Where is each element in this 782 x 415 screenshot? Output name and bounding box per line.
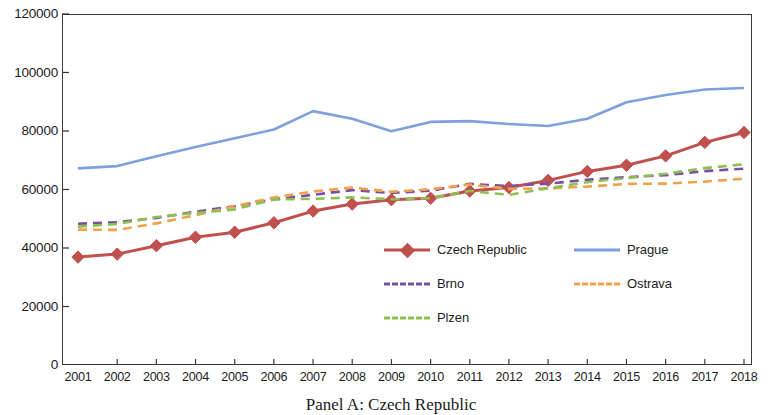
x-tick-label: 2003: [136, 370, 176, 384]
x-tick-label: 2016: [646, 370, 686, 384]
x-tick-label: 2017: [685, 370, 725, 384]
x-tick-label: 2011: [450, 370, 490, 384]
data-point-marker: [111, 248, 123, 260]
series-line-prague: [78, 88, 744, 168]
legend-label: Czech Republic: [437, 243, 527, 257]
data-point-marker: [229, 226, 241, 238]
x-tick-label: 2006: [254, 370, 294, 384]
data-point-marker: [189, 231, 201, 243]
data-point-marker: [659, 150, 671, 162]
data-point-marker: [581, 165, 593, 177]
legend-swatch-icon: [384, 277, 430, 291]
x-tick-label: 2012: [489, 370, 529, 384]
x-tick-label: 2008: [332, 370, 372, 384]
legend-swatch-icon: [574, 277, 620, 291]
x-tick-label: 2001: [58, 370, 98, 384]
data-point-marker: [346, 198, 358, 210]
legend-label: Ostrava: [627, 277, 672, 291]
series-line-plzen: [78, 164, 744, 226]
x-tick-label: 2015: [606, 370, 646, 384]
x-tick-label: 2004: [176, 370, 216, 384]
legend-swatch-icon: [384, 243, 430, 257]
data-point-marker: [620, 159, 632, 171]
legend-entry-brno[interactable]: Brno: [384, 274, 464, 294]
data-point-marker: [699, 136, 711, 148]
legend-diamond-marker-icon: [399, 242, 415, 258]
legend-label: Brno: [437, 277, 464, 291]
x-tick-label: 2014: [567, 370, 607, 384]
legend-label: Plzen: [437, 311, 469, 325]
x-tick-label: 2009: [371, 370, 411, 384]
data-point-marker: [503, 181, 515, 193]
x-tick-label: 2018: [724, 370, 764, 384]
x-tick-label: 2013: [528, 370, 568, 384]
legend-entry-ostrava[interactable]: Ostrava: [574, 274, 672, 294]
series-layer: [72, 88, 750, 263]
legend-entry-prague[interactable]: Prague: [574, 240, 668, 260]
legend-entry-czech-republic[interactable]: Czech Republic: [384, 240, 527, 260]
x-tick-label: 2007: [293, 370, 333, 384]
x-axis: 2001200220032004200520062007200820092010…: [0, 370, 782, 390]
legend-entry-plzen[interactable]: Plzen: [384, 308, 469, 328]
chart-legend: Czech RepublicPragueBrnoOstravaPlzen: [384, 240, 724, 332]
legend-swatch-icon: [384, 311, 430, 325]
legend-swatch-icon: [574, 243, 620, 257]
data-point-marker: [150, 240, 162, 252]
panel-caption: Panel A: Czech Republic: [0, 395, 782, 415]
data-point-marker: [738, 126, 750, 138]
legend-label: Prague: [627, 243, 668, 257]
x-tick-label: 2010: [411, 370, 451, 384]
data-point-marker: [268, 217, 280, 229]
data-point-marker: [72, 251, 84, 263]
data-point-marker: [307, 205, 319, 217]
x-tick-label: 2005: [215, 370, 255, 384]
x-tick-label: 2002: [97, 370, 137, 384]
series-line-ostrava: [78, 179, 744, 230]
